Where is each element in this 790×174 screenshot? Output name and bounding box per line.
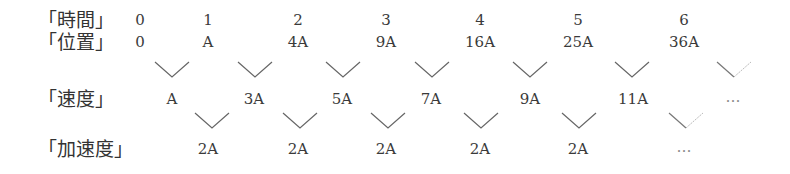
acceleration-value: 2A (470, 142, 490, 157)
difference-connector-icon (192, 112, 232, 130)
velocity-ellipsis: … (726, 90, 741, 105)
difference-connector-icon (368, 112, 408, 130)
difference-connector-icon (152, 61, 192, 79)
time-value: 4 (475, 13, 485, 28)
position-value: 0 (135, 35, 145, 50)
velocity-value: A (167, 92, 178, 107)
acceleration-value: 2A (198, 142, 218, 157)
time-row-label: 「時間」 (38, 11, 114, 30)
difference-connector-icon (323, 61, 363, 79)
velocity-value: 9A (520, 92, 540, 107)
difference-connector-icon (461, 112, 501, 130)
time-value: 2 (293, 13, 303, 28)
time-value: 1 (203, 13, 213, 28)
time-value: 3 (381, 13, 391, 28)
velocity-value: 5A (332, 92, 352, 107)
acceleration-row-label: 「加速度」 (38, 140, 133, 159)
faded-difference-connector-icon (666, 112, 706, 130)
acceleration-value: 2A (376, 142, 396, 157)
acceleration-value: 2A (288, 142, 308, 157)
difference-connector-icon (612, 61, 652, 79)
time-value: 6 (679, 13, 689, 28)
time-value: 5 (573, 13, 583, 28)
acceleration-ellipsis: … (677, 140, 692, 155)
difference-connector-icon (559, 112, 599, 130)
position-row-label: 「位置」 (38, 33, 114, 52)
acceleration-value: 2A (568, 142, 588, 157)
difference-connector-icon (412, 61, 452, 79)
difference-connector-icon (510, 61, 550, 79)
position-value: A (203, 35, 214, 50)
velocity-row-label: 「速度」 (38, 90, 114, 109)
velocity-value: 11A (618, 92, 648, 107)
position-value: 9A (376, 35, 396, 50)
position-value: 16A (465, 35, 495, 50)
velocity-value: 3A (244, 92, 264, 107)
difference-table-diagram: 「時間」 「位置」 「速度」 「加速度」 0 1 2 3 4 5 6 0 A 4… (0, 0, 790, 174)
difference-connector-icon (235, 61, 275, 79)
velocity-value: 7A (421, 92, 441, 107)
position-value: 36A (669, 35, 699, 50)
faded-difference-connector-icon (714, 61, 754, 79)
position-value: 25A (563, 35, 593, 50)
position-value: 4A (288, 35, 308, 50)
difference-connector-icon (280, 112, 320, 130)
time-value: 0 (135, 13, 145, 28)
